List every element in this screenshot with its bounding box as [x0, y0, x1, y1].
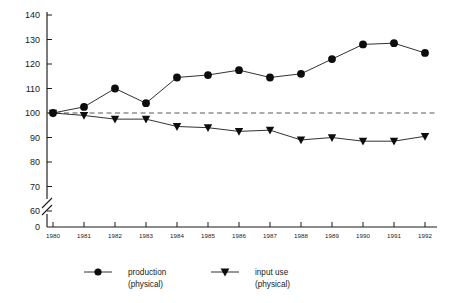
y-axis-tick-labels: 60708090100110120130140: [25, 10, 40, 216]
y-tick-label-70: 70: [30, 182, 40, 192]
y-axis-break-symbol: [42, 198, 52, 227]
x-tick-label-1989: 1989: [325, 232, 339, 239]
x-axis-tick-marks: [53, 222, 425, 227]
legend-label-production-line1: production: [128, 268, 167, 277]
x-tick-label-1992: 1992: [418, 232, 432, 239]
y-tick-label-120: 120: [25, 59, 40, 69]
legend-entry-input-use: input use (physical): [211, 268, 290, 289]
legend-entry-production: production (physical): [84, 268, 167, 289]
data-point: [173, 74, 181, 82]
x-axis-tick-labels: 1980198119821983198419851986198719881989…: [46, 232, 432, 239]
data-point: [359, 138, 367, 146]
x-tick-label-1980: 1980: [46, 232, 60, 239]
data-point: [390, 39, 398, 47]
chart-figure: 60708090100110120130140 1980198119821983…: [0, 0, 459, 303]
data-point: [142, 99, 150, 107]
y-tick-label-110: 110: [26, 84, 40, 94]
x-tick-label-1984: 1984: [170, 232, 184, 239]
legend-label-input-use-line2: (physical): [255, 280, 290, 289]
data-point: [204, 71, 212, 79]
data-point: [235, 66, 243, 74]
data-point: [359, 41, 367, 49]
line-chart: 60708090100110120130140 1980198119821983…: [0, 0, 459, 303]
y-tick-label-100: 100: [25, 108, 40, 118]
x-tick-label-1991: 1991: [387, 232, 401, 239]
input-use-series-line: [53, 113, 425, 141]
legend-marker-filled-circle: [94, 268, 101, 275]
x-tick-label-1986: 1986: [232, 232, 246, 239]
data-point: [297, 70, 305, 78]
y-axis-zero-label: 0: [35, 222, 40, 232]
data-point: [80, 103, 88, 111]
x-tick-label-1981: 1981: [77, 232, 91, 239]
data-point: [111, 85, 119, 93]
x-tick-label-1988: 1988: [294, 232, 308, 239]
legend-label-production-line2: (physical): [128, 280, 163, 289]
data-point: [421, 49, 429, 57]
y-tick-label-90: 90: [30, 133, 40, 143]
x-tick-label-1985: 1985: [201, 232, 215, 239]
production-series-line: [53, 43, 425, 113]
input-use-series-markers: [49, 110, 429, 146]
x-tick-label-1983: 1983: [139, 232, 153, 239]
y-tick-label-130: 130: [25, 35, 40, 45]
x-tick-label-1987: 1987: [263, 232, 277, 239]
production-series-markers: [49, 39, 429, 117]
data-point: [266, 74, 274, 82]
y-tick-label-60: 60: [30, 206, 40, 216]
y-tick-label-140: 140: [25, 10, 40, 20]
data-point: [297, 137, 305, 145]
legend-label-input-use-line1: input use: [255, 268, 289, 277]
y-tick-label-80: 80: [30, 157, 40, 167]
chart-legend: production (physical) input use (physica…: [84, 268, 290, 289]
legend-marker-filled-triangle-down: [221, 268, 230, 276]
data-point: [390, 138, 398, 146]
data-point: [235, 128, 243, 136]
x-tick-label-1982: 1982: [108, 232, 122, 239]
data-point: [111, 116, 119, 124]
x-tick-label-1990: 1990: [356, 232, 370, 239]
data-point: [328, 55, 336, 63]
